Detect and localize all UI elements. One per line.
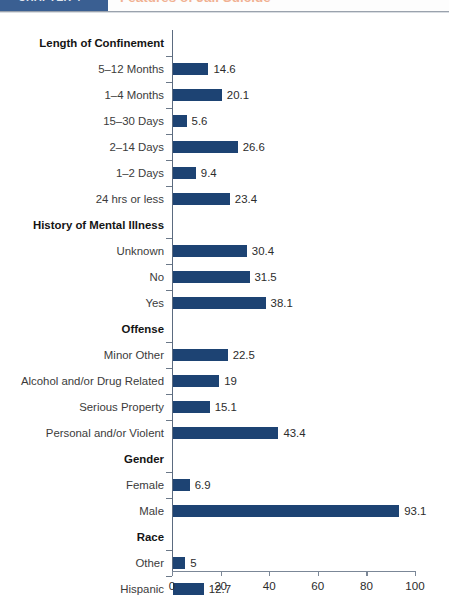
group-heading-label: Gender xyxy=(124,453,164,465)
group-heading-row: Gender xyxy=(0,446,449,472)
chapter-badge-label: CHAPTER 4 xyxy=(18,0,81,3)
category-tick xyxy=(166,368,172,369)
category-label: Yes xyxy=(145,297,164,309)
category-label: Personal and/or Violent xyxy=(46,427,164,439)
bar-row: 15–30 Days5.6 xyxy=(0,108,449,134)
bar-row: 5–12 Months14.6 xyxy=(0,56,449,82)
bar-value-label: 6.9 xyxy=(195,479,211,491)
category-tick xyxy=(166,498,172,499)
bar xyxy=(173,193,230,205)
bar-row: 1–2 Days9.4 xyxy=(0,160,449,186)
bar-row: 24 hrs or less23.4 xyxy=(0,186,449,212)
value-axis-tick-label: 100 xyxy=(405,579,424,592)
bar-row: Serious Property15.1 xyxy=(0,394,449,420)
bar-chart: Length of Confinement5–12 Months14.61–4 … xyxy=(0,13,449,602)
category-label: Female xyxy=(126,479,164,491)
bar-row: 2–14 Days26.6 xyxy=(0,134,449,160)
bar-value-label: 43.4 xyxy=(283,427,305,439)
category-tick xyxy=(166,108,172,109)
bar xyxy=(173,89,222,101)
bar xyxy=(173,167,196,179)
bar xyxy=(173,557,185,569)
bar-row: Alcohol and/or Drug Related19 xyxy=(0,368,449,394)
value-axis-tick-label: 20 xyxy=(214,579,227,592)
category-label: Serious Property xyxy=(79,401,164,413)
page-header-strip: CHAPTER 4 Features of Jail Suicide xyxy=(0,0,449,11)
bar-value-label: 30.4 xyxy=(252,245,274,257)
bar xyxy=(173,583,204,595)
bar-value-label: 38.1 xyxy=(271,297,293,309)
group-heading-label: Length of Confinement xyxy=(39,37,164,49)
bar-row: Yes38.1 xyxy=(0,290,449,316)
value-axis-tick xyxy=(221,571,222,576)
category-label: Hispanic xyxy=(120,583,164,595)
bar xyxy=(173,505,399,517)
category-label: 2–14 Days xyxy=(110,141,164,153)
bar-row: No31.5 xyxy=(0,264,449,290)
group-heading-row: Race xyxy=(0,524,449,550)
value-axis-tick xyxy=(318,571,319,576)
category-label: Minor Other xyxy=(104,349,164,361)
category-tick xyxy=(166,82,172,83)
value-axis-tick-label: 40 xyxy=(263,579,276,592)
category-label: Other xyxy=(136,557,165,569)
bar xyxy=(173,271,250,283)
group-heading-label: Race xyxy=(137,531,164,543)
category-tick xyxy=(166,160,172,161)
bar-value-label: 5 xyxy=(190,557,196,569)
bar-value-label: 23.4 xyxy=(235,193,257,205)
group-heading-label: Offense xyxy=(122,323,164,335)
bar-row: Personal and/or Violent43.4 xyxy=(0,420,449,446)
category-label: 15–30 Days xyxy=(103,115,164,127)
bar xyxy=(173,63,208,75)
category-tick xyxy=(166,186,172,187)
bar-row: Unknown30.4 xyxy=(0,238,449,264)
bar xyxy=(173,479,190,491)
bar-value-label: 15.1 xyxy=(215,401,237,413)
category-label: Unknown xyxy=(117,245,165,257)
bar xyxy=(173,297,266,309)
category-label: 1–2 Days xyxy=(116,167,164,179)
bar-row: Female6.9 xyxy=(0,472,449,498)
bar-row: Other5 xyxy=(0,550,449,576)
bar-row: 1–4 Months20.1 xyxy=(0,82,449,108)
bar xyxy=(173,349,228,361)
category-label: 24 hrs or less xyxy=(96,193,164,205)
category-tick xyxy=(166,576,172,577)
bar xyxy=(173,141,238,153)
bar-value-label: 31.5 xyxy=(255,271,277,283)
value-axis-tick-label: 80 xyxy=(360,579,373,592)
bar-row: Minor Other22.5 xyxy=(0,342,449,368)
value-axis-tick-label: 0 xyxy=(169,579,175,592)
bar xyxy=(173,401,210,413)
category-tick xyxy=(166,342,172,343)
category-tick xyxy=(166,238,172,239)
category-tick xyxy=(166,394,172,395)
bar xyxy=(173,245,247,257)
value-axis-tick-label: 60 xyxy=(311,579,324,592)
group-heading-row: Offense xyxy=(0,316,449,342)
value-axis-tick xyxy=(172,571,173,576)
bar-value-label: 5.6 xyxy=(192,115,208,127)
category-tick xyxy=(166,264,172,265)
value-axis-tick xyxy=(269,571,270,576)
bar-value-label: 19 xyxy=(224,375,237,387)
group-heading-row: History of Mental Illness xyxy=(0,212,449,238)
group-heading-row: Length of Confinement xyxy=(0,30,449,56)
category-label: 5–12 Months xyxy=(98,63,164,75)
category-label: 1–4 Months xyxy=(104,89,164,101)
value-axis-tick xyxy=(415,571,416,576)
category-label: No xyxy=(149,271,164,283)
category-label: Alcohol and/or Drug Related xyxy=(21,375,164,387)
category-tick xyxy=(166,290,172,291)
plot-area: Length of Confinement5–12 Months14.61–4 … xyxy=(0,13,449,602)
category-tick xyxy=(166,472,172,473)
category-label: Male xyxy=(139,505,164,517)
category-tick xyxy=(166,420,172,421)
category-tick xyxy=(166,550,172,551)
bar-value-label: 14.6 xyxy=(213,63,235,75)
bar-value-label: 9.4 xyxy=(201,167,217,179)
group-heading-label: History of Mental Illness xyxy=(33,219,164,231)
value-axis-tick xyxy=(366,571,367,576)
bar-value-label: 20.1 xyxy=(227,89,249,101)
